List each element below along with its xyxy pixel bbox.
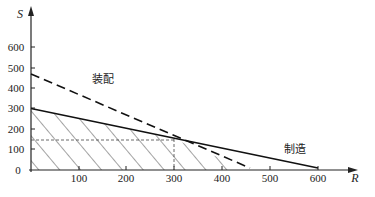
x-tick-400: 400 [214,172,231,184]
y-axis-title: S [17,7,23,21]
chart: 0 100 200 300 400 500 600 100 200 300 40… [0,0,375,197]
y-tick-100: 100 [8,143,25,155]
x-tick-200: 200 [118,172,135,184]
y-tick-600: 600 [8,41,25,53]
assembly-label: 装配 [92,73,114,86]
y-tick-0: 0 [15,164,21,176]
x-tick-100: 100 [71,172,88,184]
y-tick-400: 400 [8,82,25,94]
manufacture-label: 制造 [284,142,306,156]
y-tick-500: 500 [8,62,25,74]
y-tick-200: 200 [8,123,25,135]
x-tick-600: 600 [310,172,327,184]
y-axis-arrow-icon [28,6,34,16]
x-tick-500: 500 [262,172,279,184]
y-tick-300: 300 [8,102,25,114]
feasible-region [31,109,234,171]
x-tick-300: 300 [166,172,183,184]
x-axis-title: R [350,171,359,185]
